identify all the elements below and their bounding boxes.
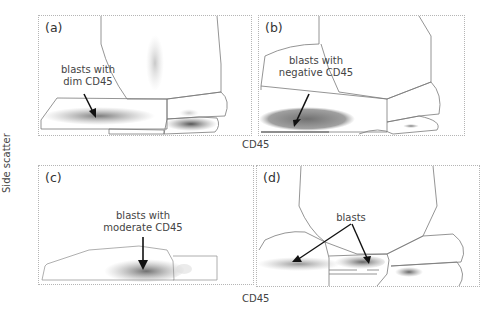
- x-axis-label-top: CD45: [242, 139, 269, 150]
- panel-b: (b) blasts with negative CD45: [258, 15, 465, 136]
- panel-a: (a) blasts with dim CD45: [38, 15, 252, 136]
- annotation-line2: moderate CD45: [103, 222, 183, 234]
- panel-d-label: (d): [263, 170, 281, 185]
- annotation-line1: blasts with: [271, 55, 361, 67]
- panel-d: (d) blasts: [256, 165, 480, 287]
- panel-d-gates: [257, 166, 479, 286]
- panel-b-annotation: blasts with negative CD45: [271, 55, 361, 79]
- x-axis-label-bottom: CD45: [242, 293, 269, 304]
- arrow-icon: [297, 224, 351, 260]
- panel-a-annotation: blasts with dim CD45: [53, 64, 123, 88]
- panel-c: (c) blasts with moderate CD45: [38, 165, 254, 285]
- panel-b-label: (b): [265, 20, 283, 35]
- panel-c-label: (c): [45, 170, 62, 185]
- panel-d-annotation: blasts: [331, 212, 371, 224]
- y-axis-label: Side scatter: [1, 133, 12, 193]
- panel-c-annotation: blasts with moderate CD45: [103, 210, 183, 234]
- annotation-line2: negative CD45: [271, 67, 361, 79]
- panel-a-label: (a): [45, 20, 62, 35]
- annotation-line2: dim CD45: [53, 76, 123, 88]
- annotation-line1: blasts with: [53, 64, 123, 76]
- annotation-line1: blasts with: [103, 210, 183, 222]
